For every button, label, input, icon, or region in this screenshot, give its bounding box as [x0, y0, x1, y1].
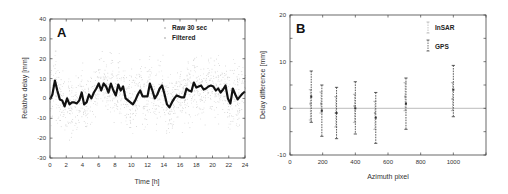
svg-text:800: 800	[416, 159, 427, 165]
svg-text:20: 20	[209, 162, 216, 168]
plot-frame-b	[290, 15, 486, 155]
svg-text:0: 0	[48, 162, 52, 168]
svg-text:0: 0	[283, 105, 287, 111]
svg-text:200: 200	[318, 159, 329, 165]
y-axis-label-b: Delay difference [mm]	[259, 51, 267, 119]
svg-text:16: 16	[177, 162, 184, 168]
x-axis-label-b: Azimuth pixel	[367, 173, 409, 181]
svg-text:10: 10	[279, 59, 286, 65]
panel-b: 02004006008001000-1001020 B InSAR GPS Az…	[259, 12, 486, 181]
svg-text:6: 6	[97, 162, 101, 168]
figure: 024681012141618202224-30-20-10010203040 …	[0, 0, 508, 194]
legend-filtered-label: Filtered	[172, 34, 196, 41]
filtered-line	[50, 81, 245, 108]
svg-text:2: 2	[65, 162, 69, 168]
svg-text:1000: 1000	[447, 159, 461, 165]
legend-raw-label: Raw 30 sec	[172, 24, 207, 31]
x-axis-label-a: Time [h]	[134, 178, 159, 186]
legend-raw-marker	[164, 27, 166, 29]
svg-text:-10: -10	[277, 152, 286, 158]
axis-ticks-b: 02004006008001000-1001020	[277, 12, 486, 165]
svg-text:-20: -20	[37, 135, 46, 141]
legend-insar-marker	[427, 22, 430, 33]
svg-text:600: 600	[383, 159, 394, 165]
error-bars	[309, 65, 455, 143]
axis-ticks-a: 024681012141618202224-30-20-10010203040	[37, 16, 249, 168]
panel-label-b: B	[296, 21, 305, 36]
svg-text:400: 400	[350, 159, 361, 165]
svg-text:18: 18	[193, 162, 200, 168]
svg-text:0: 0	[288, 159, 292, 165]
y-axis-label-a: Relative delay [mm]	[21, 57, 29, 119]
legend-gps-marker	[427, 40, 430, 51]
svg-text:22: 22	[225, 162, 232, 168]
svg-text:30: 30	[39, 36, 46, 42]
svg-text:24: 24	[242, 162, 249, 168]
legend-insar-label: InSAR	[435, 24, 455, 31]
legend-gps-label: GPS	[435, 43, 449, 50]
svg-text:40: 40	[39, 16, 46, 22]
svg-text:20: 20	[39, 56, 46, 62]
svg-text:0: 0	[43, 95, 47, 101]
svg-text:4: 4	[81, 162, 85, 168]
svg-text:8: 8	[113, 162, 117, 168]
svg-text:14: 14	[160, 162, 167, 168]
svg-text:-10: -10	[37, 115, 46, 121]
svg-text:10: 10	[128, 162, 135, 168]
legend-filtered-marker	[164, 37, 166, 39]
svg-text:10: 10	[39, 76, 46, 82]
svg-text:12: 12	[144, 162, 151, 168]
panel-label-a: A	[57, 25, 67, 40]
svg-text:-30: -30	[37, 155, 46, 161]
panel-a: 024681012141618202224-30-20-10010203040 …	[21, 16, 249, 186]
svg-text:20: 20	[279, 12, 286, 18]
